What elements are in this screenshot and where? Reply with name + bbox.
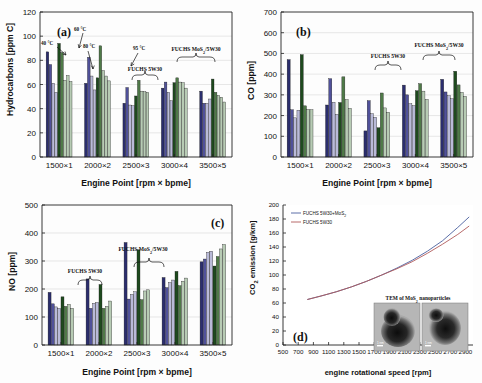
bar bbox=[422, 91, 425, 157]
bar bbox=[69, 81, 72, 157]
annotation-temp-40c: 40 °C bbox=[41, 40, 54, 46]
bar bbox=[140, 91, 143, 157]
bar bbox=[200, 262, 203, 345]
x-tick: 3000×4 bbox=[402, 161, 429, 170]
x-tick: 1500 bbox=[352, 348, 366, 355]
bar bbox=[99, 46, 102, 157]
bar bbox=[176, 78, 179, 157]
bar bbox=[137, 80, 140, 157]
bar bbox=[131, 294, 134, 345]
bar bbox=[175, 271, 178, 345]
bar bbox=[124, 243, 127, 345]
x-tick: 3000×4 bbox=[162, 349, 189, 358]
bar bbox=[64, 80, 67, 157]
bar bbox=[290, 110, 293, 157]
y-tick: 100 bbox=[264, 132, 278, 141]
bar bbox=[457, 85, 460, 157]
bar bbox=[303, 106, 306, 157]
x-tick: 1500×1 bbox=[48, 349, 75, 358]
y-tick: 400 bbox=[264, 70, 278, 79]
y-tick: 100 bbox=[25, 313, 39, 322]
annotation-temp-60c: 60 °C bbox=[74, 26, 87, 32]
bar bbox=[61, 52, 64, 157]
annotation-temp-80c: 80 °C bbox=[83, 43, 96, 49]
x-tick: 3500×5 bbox=[440, 161, 467, 170]
bar bbox=[409, 104, 412, 157]
co-bar-chart: 0100200300400500600700 1500×12000×22500×… bbox=[241, 0, 482, 191]
bar bbox=[447, 96, 450, 157]
bar bbox=[66, 75, 69, 157]
y-tick: 180 bbox=[269, 215, 280, 222]
y-tick: 20 bbox=[27, 129, 36, 138]
legend-label-base: FUCHS 5W30 bbox=[303, 220, 333, 225]
bar bbox=[127, 299, 130, 345]
y-axis-title-a: Hydrocarbons [ppm C] bbox=[5, 23, 15, 116]
x-axis-title-b: Engine Point [rpm × bpme] bbox=[322, 178, 432, 188]
y-axis-title-b: CO [ppm] bbox=[246, 61, 256, 100]
y-tick: 300 bbox=[25, 257, 39, 266]
bar bbox=[109, 301, 112, 345]
bar bbox=[48, 292, 51, 345]
y-tick: 200 bbox=[25, 285, 39, 294]
bar bbox=[147, 290, 150, 345]
y-tick: 80 bbox=[272, 285, 279, 292]
bar bbox=[287, 60, 290, 157]
y-tick: 40 bbox=[272, 313, 279, 320]
y-tick: 60 bbox=[27, 81, 36, 90]
bar bbox=[406, 95, 409, 157]
bar bbox=[206, 103, 209, 157]
bar bbox=[132, 106, 135, 157]
figure-root: 020406080100120 1500×12000×22500×33000×4… bbox=[0, 0, 482, 383]
x-tick: 1100 bbox=[322, 348, 336, 355]
bar bbox=[86, 279, 89, 345]
bar bbox=[99, 285, 102, 345]
y-tick: 0 bbox=[32, 153, 37, 162]
bar bbox=[214, 92, 217, 157]
y-axis-title-d: CO2 emission [g/km] bbox=[248, 220, 259, 295]
bar bbox=[96, 302, 99, 345]
bar bbox=[129, 105, 132, 157]
bar bbox=[203, 259, 206, 345]
bar bbox=[61, 297, 64, 345]
bar bbox=[93, 303, 96, 345]
bar bbox=[134, 292, 137, 345]
bar bbox=[137, 250, 140, 345]
bars-c bbox=[48, 243, 226, 345]
bar bbox=[126, 88, 129, 157]
bar bbox=[105, 76, 108, 157]
bar bbox=[384, 108, 387, 157]
panel-label-d: (d) bbox=[293, 330, 308, 344]
x-tick: 3000×4 bbox=[161, 161, 188, 170]
bar bbox=[51, 304, 54, 345]
bar bbox=[105, 306, 108, 345]
bar bbox=[96, 78, 99, 157]
bar bbox=[419, 84, 422, 157]
x-tick: 2500×3 bbox=[124, 349, 151, 358]
y-tick: 500 bbox=[25, 201, 39, 210]
bar bbox=[310, 110, 313, 157]
y-tick: 200 bbox=[264, 112, 278, 121]
bar bbox=[89, 308, 92, 345]
bar bbox=[402, 85, 405, 157]
bar bbox=[345, 100, 348, 157]
bar bbox=[49, 65, 52, 157]
y-tick: 300 bbox=[264, 91, 278, 100]
chart-panel-c: 0100200300400500 1500×12000×22500×33000×… bbox=[0, 191, 241, 383]
panel-label-b: (b) bbox=[296, 25, 311, 39]
bar bbox=[348, 108, 351, 157]
bar bbox=[335, 114, 338, 157]
bar bbox=[143, 291, 146, 345]
bar bbox=[55, 92, 58, 157]
y-tick: 600 bbox=[264, 29, 278, 38]
bar bbox=[211, 79, 214, 157]
bar bbox=[58, 308, 61, 345]
bar bbox=[167, 92, 170, 157]
bracket-label-5w30-c: FUCHS 5W30 bbox=[68, 268, 103, 274]
bar bbox=[451, 99, 454, 157]
bar bbox=[135, 96, 138, 157]
bar bbox=[67, 304, 70, 345]
bar bbox=[93, 90, 96, 157]
x-tick: 1500×1 bbox=[287, 161, 314, 170]
panel-label-a: (a) bbox=[57, 25, 71, 39]
bar bbox=[179, 82, 182, 157]
